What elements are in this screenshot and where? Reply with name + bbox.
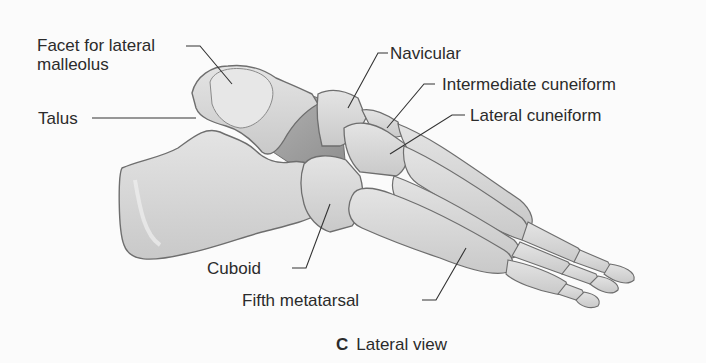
label-facet-line1: Facet for lateral xyxy=(37,36,155,55)
caption-text: Lateral view xyxy=(356,335,447,354)
label-lateral-cuneiform: Lateral cuneiform xyxy=(470,106,601,125)
label-cuboid: Cuboid xyxy=(207,259,261,278)
label-fifth-metatarsal: Fifth metatarsal xyxy=(242,291,359,310)
label-facet-line2: malleolus xyxy=(37,55,155,74)
label-facet-lateral-malleolus: Facet for lateral malleolus xyxy=(37,36,155,74)
label-intermediate-cuneiform: Intermediate cuneiform xyxy=(442,75,616,94)
label-navicular: Navicular xyxy=(390,44,461,63)
figure-caption: CLateral view xyxy=(336,335,447,355)
label-talus: Talus xyxy=(38,109,78,128)
panel-letter: C xyxy=(336,335,348,354)
